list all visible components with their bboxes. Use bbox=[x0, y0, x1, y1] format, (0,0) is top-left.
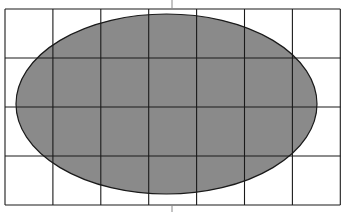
ellipse-grid-diagram bbox=[0, 0, 348, 212]
shaded-ellipse bbox=[16, 14, 317, 194]
